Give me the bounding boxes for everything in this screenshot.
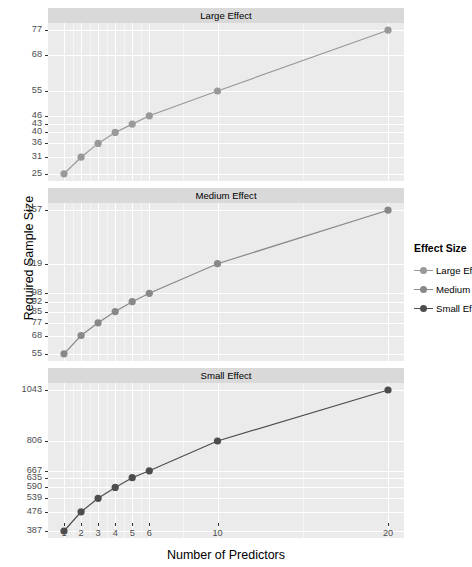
y-tick-label: 387 <box>0 525 42 535</box>
data-point <box>384 207 391 214</box>
x-tick-mark <box>98 523 99 526</box>
x-tick-mark <box>81 523 82 526</box>
y-tick-label: 46 <box>0 110 42 120</box>
y-tick-mark <box>45 91 48 92</box>
data-point <box>214 437 221 444</box>
y-tick-mark <box>45 174 48 175</box>
x-tick-mark <box>218 523 219 526</box>
data-point <box>112 308 119 315</box>
legend-item-2[interactable]: Small Ef <box>414 299 472 318</box>
y-tick-mark <box>45 132 48 133</box>
y-tick-label: 55 <box>0 348 42 358</box>
data-point <box>78 332 85 339</box>
y-tick-mark <box>45 336 48 337</box>
plot-panel-0 <box>48 23 404 181</box>
data-point <box>129 298 136 305</box>
series-line <box>64 390 388 531</box>
data-point <box>60 170 67 177</box>
y-tick-label: 806 <box>0 435 42 445</box>
legend-item-0[interactable]: Large Ef <box>414 261 472 280</box>
y-tick-label: 55 <box>0 85 42 95</box>
y-tick-mark <box>45 354 48 355</box>
data-point <box>129 121 136 128</box>
data-point <box>112 484 119 491</box>
y-tick-label: 68 <box>0 330 42 340</box>
legend: Effect Size Large EfMediumSmall Ef <box>414 243 472 318</box>
facet-strip-label-0: Large Effect <box>48 8 404 23</box>
data-point <box>60 350 67 357</box>
y-tick-mark <box>45 512 48 513</box>
y-tick-mark <box>45 531 48 532</box>
x-tick-label: 10 <box>206 528 230 538</box>
plot-panel-1 <box>48 203 404 361</box>
data-point <box>129 474 136 481</box>
legend-key-icon <box>414 299 433 318</box>
legend-dot <box>420 305 427 312</box>
data-point <box>146 112 153 119</box>
data-point <box>95 319 102 326</box>
y-tick-mark <box>45 124 48 125</box>
legend-label: Medium <box>436 284 470 295</box>
data-point <box>384 27 391 34</box>
legend-item-1[interactable]: Medium <box>414 280 472 299</box>
plot-panel-2 <box>48 383 404 538</box>
x-tick-mark <box>115 523 116 526</box>
x-tick-mark <box>388 523 389 526</box>
y-tick-mark <box>45 30 48 31</box>
y-tick-mark <box>45 55 48 56</box>
series-2 <box>48 383 404 538</box>
legend-label: Small Ef <box>436 303 472 314</box>
y-tick-mark <box>45 390 48 391</box>
series-line <box>64 210 388 354</box>
y-tick-label: 157 <box>0 204 42 214</box>
y-tick-mark <box>45 498 48 499</box>
facet-strip-label-2: Small Effect <box>48 368 404 383</box>
legend-items: Large EfMediumSmall Ef <box>414 261 472 318</box>
y-tick-label: 539 <box>0 492 42 502</box>
y-tick-mark <box>45 157 48 158</box>
y-tick-mark <box>45 264 48 265</box>
data-point <box>384 386 391 393</box>
y-tick-mark <box>45 478 48 479</box>
x-axis-title: Number of Predictors <box>48 548 404 562</box>
legend-label: Large Ef <box>436 265 472 276</box>
x-tick-label: 6 <box>137 528 161 538</box>
data-point <box>214 87 221 94</box>
y-tick-label: 119 <box>0 258 42 268</box>
series-1 <box>48 203 404 361</box>
x-tick-mark <box>132 523 133 526</box>
x-tick-mark <box>149 523 150 526</box>
legend-title: Effect Size <box>414 243 472 254</box>
y-tick-mark <box>45 210 48 211</box>
y-tick-mark <box>45 293 48 294</box>
data-point <box>112 129 119 136</box>
y-tick-mark <box>45 441 48 442</box>
y-tick-mark <box>45 323 48 324</box>
legend-dot <box>420 267 427 274</box>
data-point <box>146 467 153 474</box>
y-tick-label: 31 <box>0 151 42 161</box>
x-tick-label: 20 <box>376 528 400 538</box>
data-point <box>95 140 102 147</box>
y-tick-label: 25 <box>0 168 42 178</box>
y-tick-label: 68 <box>0 49 42 59</box>
legend-key-icon <box>414 280 433 299</box>
data-point <box>95 495 102 502</box>
y-tick-label: 77 <box>0 317 42 327</box>
y-tick-mark <box>45 471 48 472</box>
y-tick-mark <box>45 312 48 313</box>
data-point <box>146 290 153 297</box>
y-tick-label: 77 <box>0 24 42 34</box>
series-0 <box>48 23 404 181</box>
legend-key-icon <box>414 261 433 280</box>
data-point <box>214 260 221 267</box>
y-tick-label: 590 <box>0 481 42 491</box>
y-tick-label: 85 <box>0 306 42 316</box>
series-line <box>64 30 388 174</box>
y-tick-mark <box>45 302 48 303</box>
data-point <box>78 154 85 161</box>
y-tick-label: 36 <box>0 137 42 147</box>
data-point <box>78 508 85 515</box>
legend-dot <box>420 286 427 293</box>
